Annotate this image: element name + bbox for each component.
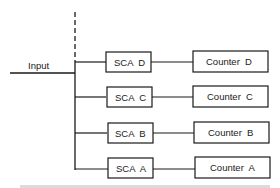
counter-c-label: Counter C [207,91,253,102]
cropped-footer-text [20,185,270,188]
counter-b-label: Counter B [208,127,253,138]
sca-b-label: SCA B [115,128,146,139]
channel-c: SCA C Counter C [75,86,268,107]
sca-c-label: SCA C [115,92,146,103]
input-label: Input [28,60,49,71]
sca-counter-diagram: Input SCA D Counter D SCA C Counter C SC… [0,0,280,188]
sca-d-label: SCA D [114,57,145,68]
channel-d: SCA D Counter D [75,51,268,72]
counter-d-label: Counter D [206,56,252,67]
counter-a-label: Counter A [210,162,256,173]
sca-a-label: SCA A [116,163,147,174]
channel-b: SCA B Counter B [75,122,269,143]
channel-a: SCA A Counter A [75,157,270,178]
